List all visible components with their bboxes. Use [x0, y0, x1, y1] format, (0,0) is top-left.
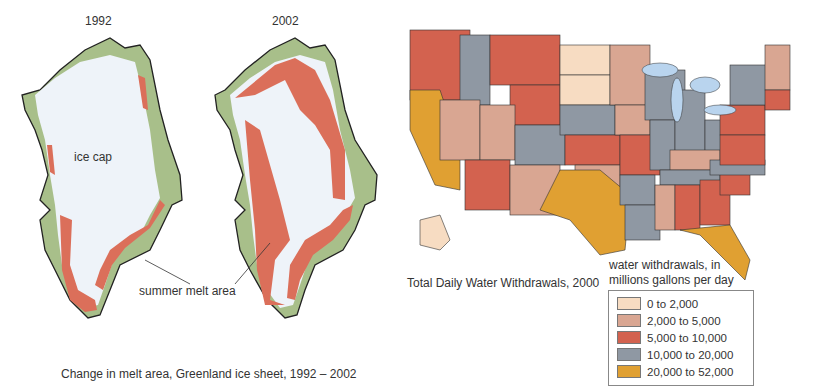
legend-item: 20,000 to 52,000	[617, 363, 753, 380]
legend: 0 to 2,000 2,000 to 5,000 5,000 to 10,00…	[608, 290, 754, 386]
legend-item: 10,000 to 20,000	[617, 346, 753, 363]
legend-item: 5,000 to 10,000	[617, 329, 753, 346]
legend-swatch	[617, 331, 641, 344]
greenland-caption: Change in melt area, Greenland ice sheet…	[61, 367, 357, 381]
legend-title-line2: millions gallons per day	[609, 273, 734, 287]
legend-title-line1: water withdrawals, in	[609, 258, 720, 272]
legend-swatch	[617, 314, 641, 327]
legend-item: 2,000 to 5,000	[617, 312, 753, 329]
legend-item: 0 to 2,000	[617, 295, 753, 312]
us-water-map	[400, 10, 800, 290]
legend-swatch	[617, 297, 641, 310]
us-map-title: Total Daily Water Withdrawals, 2000	[407, 276, 599, 290]
legend-swatch	[617, 348, 641, 361]
summer-melt-area-label: summer melt area	[139, 284, 236, 298]
melt-pointer-lines	[0, 0, 400, 388]
legend-swatch	[617, 365, 641, 378]
